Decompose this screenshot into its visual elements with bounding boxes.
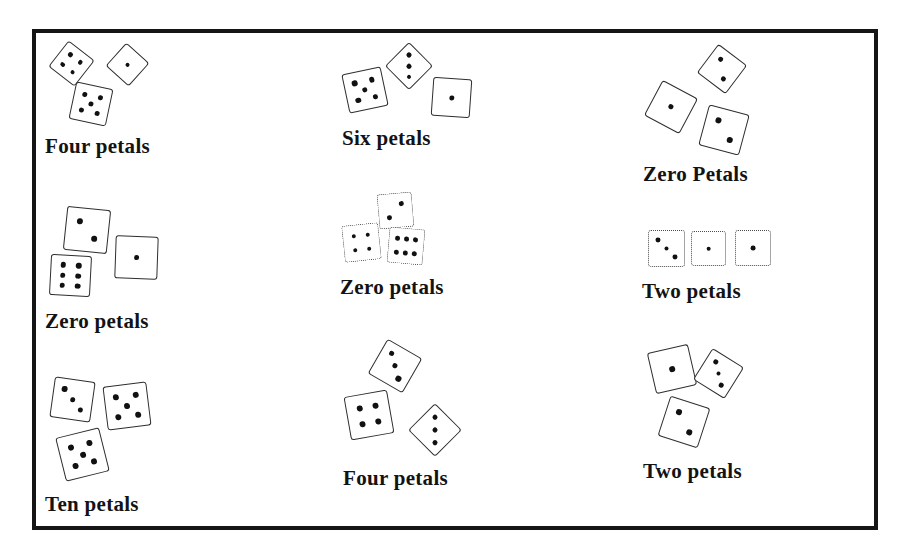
die-pip	[75, 283, 81, 289]
die-pip	[672, 254, 677, 259]
die-pip	[372, 94, 378, 100]
die-pip	[372, 402, 379, 409]
die-pip	[77, 407, 83, 413]
die-pip	[369, 76, 375, 82]
die-pip	[387, 215, 392, 220]
die-6	[49, 254, 92, 297]
die-4	[344, 390, 395, 441]
die-pip	[94, 111, 100, 117]
group-label: Zero petals	[45, 310, 149, 332]
die-pip	[751, 246, 756, 251]
die-pip	[656, 238, 661, 243]
die-pip	[86, 439, 93, 446]
die-3	[49, 376, 95, 422]
die-pip	[403, 250, 408, 255]
die-pip	[356, 405, 363, 412]
die-pip	[75, 273, 81, 279]
die-pip	[717, 56, 724, 63]
die-pip	[67, 52, 73, 58]
die-pip	[67, 444, 74, 451]
die-pip	[88, 101, 94, 107]
group-label: Ten petals	[45, 493, 139, 515]
die-pip	[394, 249, 399, 254]
die-6	[386, 226, 425, 265]
die-pip	[91, 458, 98, 465]
die-pip	[399, 201, 404, 206]
die-pip	[431, 426, 438, 433]
die-pip	[60, 262, 66, 268]
die-pip	[59, 282, 65, 288]
die-pip	[60, 61, 66, 67]
die-pip	[78, 107, 84, 113]
group-label: Zero Petals	[643, 163, 748, 185]
die-pip	[69, 69, 75, 75]
die-pip	[449, 95, 455, 101]
die-pip	[134, 255, 140, 261]
die-pip	[413, 237, 418, 242]
group-label: Zero petals	[340, 276, 444, 298]
group-label: Two petals	[642, 280, 741, 302]
die-pip	[351, 80, 357, 86]
die-pip	[715, 370, 722, 377]
die-pip	[412, 251, 417, 256]
figure-page: Four petalsSix petalsZero PetalsZero pet…	[0, 0, 907, 558]
die-pip	[69, 396, 75, 402]
die-5	[102, 381, 151, 430]
die-pip	[726, 136, 733, 143]
die-2	[377, 192, 415, 230]
die-pip	[124, 61, 130, 67]
die-pip	[395, 236, 400, 241]
die-pip	[715, 117, 722, 124]
die-pip	[669, 366, 676, 373]
die-1	[114, 235, 158, 279]
die-pip	[76, 263, 82, 269]
die-pip	[365, 232, 370, 237]
die-pip	[77, 59, 83, 65]
die-1	[431, 77, 473, 119]
die-3	[648, 230, 685, 267]
die-pip	[391, 362, 398, 369]
die-pip	[351, 234, 356, 239]
group-label: Four petals	[45, 135, 150, 157]
die-pip	[91, 236, 98, 243]
die-pip	[406, 63, 412, 69]
die-pip	[124, 403, 131, 410]
die-pip	[686, 429, 693, 436]
die-pip	[359, 421, 366, 428]
die-pip	[60, 272, 66, 278]
die-pip	[706, 246, 711, 251]
die-pip	[98, 95, 104, 101]
die-pip	[667, 103, 674, 110]
die-pip	[362, 87, 368, 93]
die-pip	[431, 414, 438, 421]
die-pip	[395, 375, 402, 382]
die-pip	[431, 439, 438, 446]
die-pip	[375, 418, 382, 425]
die-pip	[712, 358, 719, 365]
die-pip	[720, 75, 727, 82]
die-1	[691, 231, 726, 266]
die-pip	[79, 451, 86, 458]
die-5	[341, 66, 388, 113]
die-pip	[366, 246, 371, 251]
group-label: Four petals	[343, 467, 448, 489]
die-2	[63, 206, 111, 254]
die-pip	[72, 463, 79, 470]
die-4	[341, 222, 382, 263]
die-pip	[76, 217, 83, 224]
die-pip	[406, 52, 412, 58]
die-pip	[113, 394, 120, 401]
die-pip	[134, 411, 141, 418]
die-pip	[406, 74, 412, 80]
die-pip	[675, 408, 682, 415]
group-label: Six petals	[342, 127, 431, 149]
die-pip	[82, 91, 88, 97]
die-pip	[404, 237, 409, 242]
die-pip	[61, 386, 67, 392]
die-pip	[718, 382, 725, 389]
die-5	[68, 81, 113, 126]
die-pip	[355, 97, 361, 103]
die-pip	[115, 413, 122, 420]
die-pip	[664, 246, 669, 251]
die-pip	[132, 392, 139, 399]
